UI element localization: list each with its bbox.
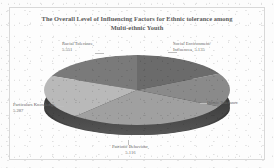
pie-top-face <box>44 55 230 125</box>
pie-label-racial-tolerance: Racial Tolerance, 5.551 <box>62 41 94 53</box>
pie-label-patriotic-behaviour-name: Patriotic Behaviour, <box>112 144 149 149</box>
pie-label-ethnic-tolerance: Ethnic Tolerance <box>207 100 238 106</box>
chart-title: The Overall Level of Influencing Factors… <box>16 14 258 32</box>
pie-label-racial-tolerance-value: 5.551 <box>62 47 94 53</box>
pie-label-social-environment-value: Influences, 5.135 <box>173 47 211 53</box>
chart-title-line-2: Multi-ethnic Youth <box>16 23 258 32</box>
pie-label-particulars-knowledge: Particulars Knowledge, 5.287 <box>13 102 56 114</box>
pie-label-patriotic-behaviour-value: 5.116 <box>112 150 149 156</box>
pie-slices-svg <box>44 55 230 125</box>
pie-label-particulars-knowledge-name: Particulars Knowledge, <box>13 102 56 107</box>
leader-line-racial <box>95 53 104 54</box>
pie-label-social-environment: Social Environment/ Influences, 5.135 <box>173 41 211 53</box>
leader-line-particulars <box>56 106 64 107</box>
pie-label-particulars-knowledge-value: 5.287 <box>13 108 56 114</box>
pie-label-racial-tolerance-name: Racial Tolerance, <box>62 41 94 46</box>
pie-label-social-environment-name: Social Environment/ <box>173 41 211 46</box>
pie-label-patriotic-behaviour: Patriotic Behaviour, 5.116 <box>112 144 149 156</box>
pie-label-ethnic-tolerance-name: Ethnic Tolerance <box>207 100 238 105</box>
pie-chart <box>44 55 230 147</box>
chart-title-line-1: The Overall Level of Influencing Factors… <box>42 15 233 22</box>
leader-line-ethnic <box>200 103 207 104</box>
chart-figure: The Overall Level of Influencing Factors… <box>0 0 274 168</box>
